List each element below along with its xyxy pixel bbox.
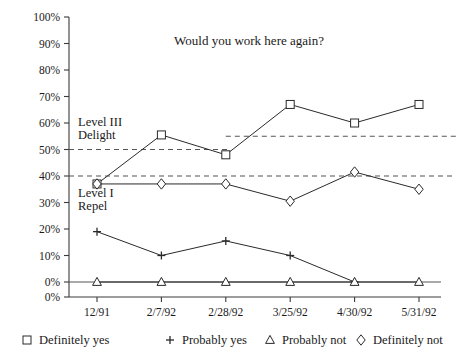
x-tick-label: 12/91 bbox=[84, 306, 110, 318]
diamond-marker-icon bbox=[222, 179, 230, 189]
x-tick-label: 5/31/92 bbox=[401, 306, 436, 318]
square-marker-icon bbox=[222, 151, 230, 159]
series-triangle bbox=[93, 277, 424, 285]
y-tick-label: 0% bbox=[45, 291, 61, 303]
diamond-marker-icon bbox=[157, 179, 165, 189]
y-tick-label: 40% bbox=[39, 170, 61, 182]
triangle-marker-icon bbox=[93, 277, 102, 285]
y-tick-label: 20% bbox=[39, 223, 61, 235]
x-tick-label: 4/30/92 bbox=[337, 306, 372, 318]
survey-line-chart: Would you work here again?100%90%80%70%6… bbox=[0, 0, 456, 359]
legend-item-label: Definitely yes bbox=[39, 333, 110, 347]
series-square bbox=[93, 100, 423, 188]
y-tick-label: 90% bbox=[39, 38, 61, 50]
x-tick-label: 3/25/92 bbox=[273, 306, 308, 318]
x-tick-label: 2/28/92 bbox=[208, 306, 243, 318]
triangle-marker-icon bbox=[221, 277, 230, 285]
y-tick-label: 50% bbox=[39, 144, 61, 156]
diamond-marker-icon bbox=[286, 196, 294, 206]
legend-item-label: Probably yes bbox=[182, 333, 247, 347]
y-tick-label: 100% bbox=[33, 11, 60, 23]
legend-item-label: Probably not bbox=[282, 333, 347, 347]
square-marker-icon bbox=[286, 100, 294, 108]
legend-item[interactable]: Probably yes bbox=[166, 333, 247, 347]
legend-item[interactable]: Definitely not bbox=[357, 333, 444, 347]
triangle-marker-icon bbox=[415, 277, 424, 285]
square-marker-icon bbox=[415, 100, 423, 108]
series-diamond bbox=[93, 167, 423, 207]
y-tick-label: 30% bbox=[39, 197, 61, 209]
plot-annotation: Delight bbox=[78, 128, 116, 142]
diamond-marker-icon bbox=[357, 335, 365, 345]
triangle-marker-icon bbox=[286, 277, 295, 285]
legend-item[interactable]: Probably not bbox=[266, 333, 347, 347]
y-tick-label: 0% bbox=[45, 276, 61, 288]
legend-item[interactable]: Definitely yes bbox=[23, 333, 110, 347]
square-marker-icon bbox=[23, 336, 31, 344]
plot-annotation: Level III bbox=[78, 115, 122, 129]
square-marker-icon bbox=[157, 131, 165, 139]
x-tick-label: 2/7/92 bbox=[147, 306, 177, 318]
chart-title: Would you work here again? bbox=[174, 33, 324, 48]
diamond-marker-icon bbox=[415, 184, 423, 194]
square-marker-icon bbox=[351, 119, 359, 127]
triangle-marker-icon bbox=[157, 277, 166, 285]
y-tick-label: 80% bbox=[39, 64, 61, 76]
legend-item-label: Definitely not bbox=[373, 333, 443, 347]
chart-container: Would you work here again?100%90%80%70%6… bbox=[0, 0, 456, 359]
triangle-marker-icon bbox=[266, 335, 275, 343]
y-tick-label: 70% bbox=[39, 91, 61, 103]
plot-annotation: Repel bbox=[78, 199, 108, 213]
y-tick-label: 10% bbox=[39, 250, 61, 262]
y-tick-label: 60% bbox=[39, 117, 61, 129]
series-path bbox=[97, 104, 419, 184]
